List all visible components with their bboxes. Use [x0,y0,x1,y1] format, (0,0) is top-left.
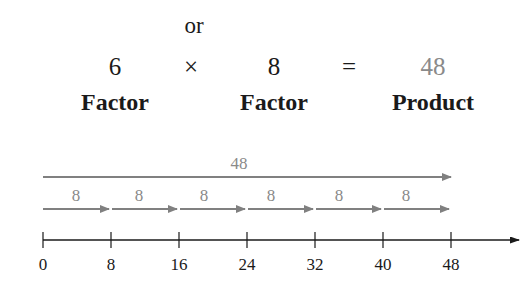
tick-label-32: 32 [307,256,324,273]
step-label: 8 [72,187,81,204]
tick-label-8: 8 [107,256,116,273]
tick-label-0: 0 [39,256,48,273]
step-label: 8 [267,187,276,204]
step-label: 8 [402,187,411,204]
tick-label-40: 40 [375,256,392,273]
number-axis [43,232,519,248]
step-label: 8 [135,187,144,204]
tick-label-48: 48 [443,256,460,273]
step-label: 8 [335,187,344,204]
number-line-diagram [0,0,526,284]
tick-label-16: 16 [171,256,188,273]
tick-label-24: 24 [239,256,256,273]
total-label: 48 [231,155,248,172]
step-label: 8 [200,187,209,204]
